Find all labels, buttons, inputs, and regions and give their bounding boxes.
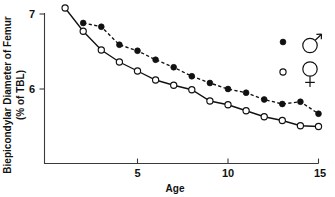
x-axis-title: Age [166,183,185,194]
data-series-layer [62,5,322,130]
data-point-male-age-15 [316,111,322,117]
axes [40,13,319,164]
y-axis-title-line1: Biepicondylar Diameter of Femur [2,16,13,173]
ytick-label-7: 7 [29,8,35,20]
data-point-male-age-4 [117,42,123,48]
chart-figure: 7 6 5 10 15 Age Biepicondylar Diameter o… [0,0,335,197]
data-point-male-age-13 [279,101,285,107]
legend-marker-male [280,39,286,45]
xtick-label-10: 10 [222,167,234,179]
data-point-male-age-10 [225,86,231,92]
data-point-female-age-9 [207,98,213,104]
data-point-female-age-14 [297,123,303,129]
data-point-female-age-1 [62,5,68,11]
axis-spine [45,13,319,164]
data-point-female-age-11 [243,108,249,114]
data-point-male-age-3 [98,24,104,30]
data-point-female-age-3 [98,47,104,53]
data-point-male-age-6 [153,57,159,63]
data-point-female-age-10 [225,102,231,108]
data-point-female-age-15 [315,123,321,129]
venus-symbol-icon [303,62,317,87]
data-point-female-age-8 [189,87,195,93]
data-point-male-age-7 [171,64,177,70]
mars-symbol-icon [303,34,322,52]
y-axis-title-line2: (% of TBL) [15,70,26,120]
xtick-label-15: 15 [314,167,326,179]
data-point-male-age-2 [80,20,86,26]
legend-marker-female [280,69,286,75]
data-point-female-age-6 [153,77,159,83]
data-point-male-age-14 [298,99,304,105]
data-point-female-age-5 [134,68,140,74]
data-point-female-age-4 [116,59,122,65]
ytick-label-6: 6 [29,83,35,95]
xtick-label-5: 5 [134,167,140,179]
data-point-female-age-2 [80,28,86,34]
data-point-male-age-9 [207,80,213,86]
data-point-female-age-12 [261,114,267,120]
data-point-male-age-11 [243,90,249,96]
data-point-male-age-12 [261,97,267,103]
data-point-male-age-5 [135,48,141,54]
chart-canvas: 7 6 5 10 15 Age Biepicondylar Diameter o… [0,0,335,197]
data-point-female-age-13 [279,117,285,123]
chart-legend [280,34,322,87]
data-point-male-age-8 [189,73,195,79]
data-point-female-age-7 [171,82,177,88]
